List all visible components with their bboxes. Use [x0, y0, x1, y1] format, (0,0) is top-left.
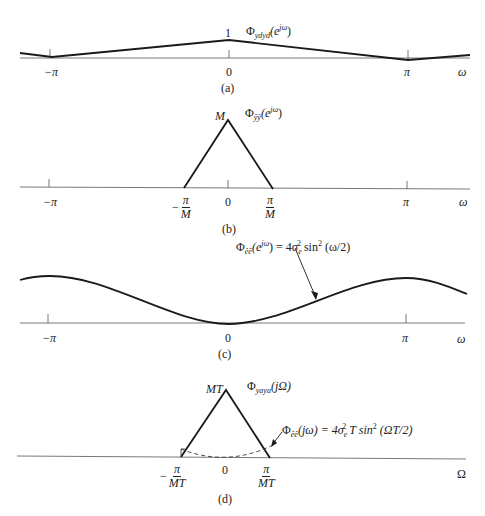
panel-b-graphics: [20, 120, 470, 189]
panel-b-triangle: [184, 120, 273, 189]
panel-c-caption: (c): [218, 347, 231, 362]
panel-b-tick-label-neg-pi: −π: [43, 196, 57, 208]
panel-b-caption: (b): [222, 222, 236, 237]
panel-a-curve: [20, 40, 470, 60]
panel-d-dashed-noise-curve: [181, 446, 271, 457]
panel-d-noise-label: Φêê(jω) = 4σe2 T sin2 (ΩT/2): [282, 423, 412, 439]
panel-b-band-right-label: πM: [265, 194, 275, 220]
panel-b-axis: [20, 187, 470, 189]
panel-b-peak-label: M: [215, 110, 225, 122]
panel-d-triangle: [181, 390, 270, 458]
panel-a-axis-var: ω: [458, 66, 466, 78]
panel-c-curve: [20, 276, 467, 324]
panel-a-tick-label-neg-pi: −π: [44, 66, 58, 78]
panel-a-graphics: [20, 40, 470, 60]
arrowhead-icon: [311, 291, 318, 300]
panel-d-tick-label-zero: 0: [222, 464, 228, 476]
panel-a-caption: (a): [221, 81, 234, 96]
panel-c-tick-label-neg-pi: −π: [42, 332, 56, 344]
panel-a-tick-label-zero: 0: [226, 66, 232, 78]
panel-b-band-left-label: − πM: [172, 194, 191, 220]
panel-b-tick-label-pi: π: [403, 196, 409, 208]
panel-c-graphics: [20, 248, 467, 324]
panel-d-band-right-label: πMT: [258, 463, 275, 489]
panel-d-peak-label: MT: [206, 383, 223, 395]
panel-a-tick-label-pi: π: [404, 66, 410, 78]
panel-d-axis-var: Ω: [457, 468, 466, 480]
panel-c-tick-label-pi: π: [402, 332, 408, 344]
panel-a-peak-label: 1: [225, 27, 231, 39]
panel-b-function-label: Φŷŷ(ejω): [245, 106, 282, 122]
panel-b-axis-var: ω: [459, 196, 467, 208]
panel-c-tick-label-zero: 0: [225, 332, 231, 344]
panel-a-function-label: Φydyd(ejω): [246, 24, 291, 40]
panel-c-axis-var: ω: [457, 333, 465, 345]
panel-d-function-label: Φyaya(jΩ): [247, 380, 291, 395]
panel-d-caption: (d): [218, 492, 232, 507]
panel-b-tick-label-zero: 0: [225, 196, 231, 208]
panel-d-axis: [17, 456, 466, 459]
panel-d-band-left-label: − πMT: [160, 463, 185, 489]
panel-c-function-label: Φêê(ejω) = 4σe2 sin2 (ω/2): [236, 240, 350, 256]
